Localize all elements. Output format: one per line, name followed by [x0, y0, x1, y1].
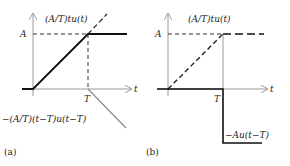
- caption-b: (b): [146, 147, 159, 157]
- label-neg-step: −Au(t−T): [225, 130, 270, 140]
- negative-ramp: [88, 89, 126, 128]
- label-t-axis: t: [270, 84, 274, 94]
- label-a: A: [154, 29, 162, 39]
- label-a: A: [19, 29, 27, 39]
- caption-a: (a): [4, 147, 16, 157]
- label-t-tick: T: [84, 94, 91, 104]
- label-ramp: (A/T)tu(t): [188, 14, 231, 24]
- panel-a: (A/T)tu(t) A T t −(A/T)(t−T)u(t−T) (a): [2, 13, 138, 157]
- ramp-extension: [88, 14, 107, 34]
- label-t-tick: T: [214, 94, 221, 104]
- panel-b: (A/T)tu(t) A T t −Au(t−T) (b): [146, 13, 274, 157]
- label-t-axis: t: [134, 84, 138, 94]
- diagram-canvas: (A/T)tu(t) A T t −(A/T)(t−T)u(t−T) (a) (…: [0, 0, 290, 166]
- label-neg-ramp: −(A/T)(t−T)u(t−T): [2, 114, 87, 124]
- ramp-dashed: [168, 34, 223, 89]
- signal: [22, 34, 127, 89]
- label-ramp: (A/T)tu(t): [45, 14, 88, 24]
